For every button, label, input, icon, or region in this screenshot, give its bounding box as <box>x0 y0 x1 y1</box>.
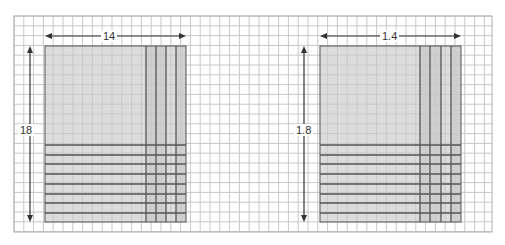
left-width-label: 14 <box>101 30 117 42</box>
arrowhead-up-icon <box>301 46 307 53</box>
graph-paper-diagram <box>0 0 505 245</box>
arrowhead-right-icon <box>179 33 186 39</box>
left-height-label: 18 <box>18 124 34 136</box>
right-width-label: 1.4 <box>380 30 399 42</box>
arrowhead-up-icon <box>27 46 33 53</box>
arrowhead-left-icon <box>45 33 52 39</box>
arrowhead-down-icon <box>27 215 33 222</box>
arrowhead-left-icon <box>320 33 327 39</box>
arrowhead-right-icon <box>454 33 461 39</box>
arrowhead-down-icon <box>301 215 307 222</box>
right-height-label: 1.8 <box>294 124 313 136</box>
